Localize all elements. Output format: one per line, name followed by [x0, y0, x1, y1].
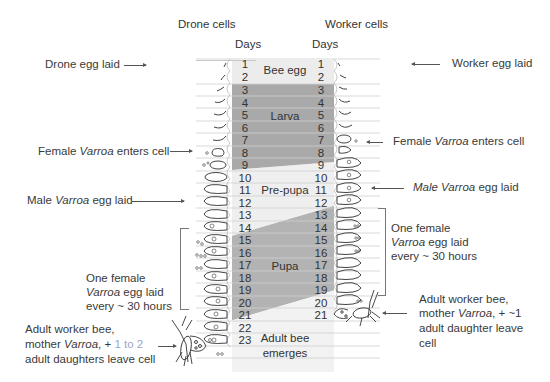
- right-adult-line4: cell: [419, 337, 436, 350]
- drone-egg-arrow: [124, 65, 146, 66]
- drone-adult-bee-icon: [172, 316, 206, 366]
- left-one-female-line2: Varroa egg laid: [86, 286, 164, 299]
- left-female-varroa-arrow: [170, 151, 192, 152]
- stage-egg: Bee egg: [262, 64, 308, 76]
- right-adult-arrow: [383, 313, 407, 314]
- right-one-female-line2: Varroa egg laid: [391, 236, 469, 249]
- left-adult-arrow: [158, 346, 176, 347]
- right-adult-line3: adult daughter leave: [419, 322, 523, 335]
- stage-pupa: Pupa: [262, 260, 308, 272]
- stage-adult-line2: emerges: [255, 347, 315, 359]
- drone-egg-laid-label: Drone egg laid: [45, 58, 120, 71]
- right-female-varroa-arrow: [367, 142, 383, 143]
- left-one-female-line1: One female: [86, 272, 145, 285]
- left-male-varroa-arrow: [132, 201, 184, 202]
- right-male-varroa-egg-label: Male Varroa egg laid: [413, 181, 519, 194]
- left-adult-line1: Adult worker bee,: [25, 323, 115, 336]
- right-adult-line1: Adult worker bee,: [419, 293, 509, 306]
- right-female-varroa-enters-label: Female Varroa enters cell: [393, 135, 524, 148]
- right-adult-line2: mother Varroa, + ~1: [419, 307, 522, 320]
- left-male-varroa-egg-label: Male Varroa egg laid: [27, 194, 133, 207]
- left-female-varroa-enters-label: Female Varroa enters cell: [38, 145, 169, 158]
- worker-egg-laid-label: Worker egg laid: [452, 57, 532, 70]
- right-one-female-line1: One female: [391, 222, 450, 235]
- right-one-female-line3: every ~ 30 hours: [391, 250, 477, 263]
- stage-larva: Larva: [262, 110, 308, 122]
- stage-adult-line1: Adult bee: [255, 332, 315, 344]
- left-adult-line3: adult daughters leave cell: [25, 353, 155, 366]
- worker-egg-arrow: [412, 64, 440, 65]
- right-male-varroa-arrow: [372, 188, 404, 189]
- left-one-female-line3: every ~ 30 hours: [86, 300, 172, 313]
- right-bracket: [378, 208, 386, 296]
- left-adult-line2: mother Varroa, + 1 to 2: [25, 338, 143, 351]
- stage-prepupa: Pre-pupa: [255, 184, 315, 196]
- left-bracket: [180, 228, 189, 310]
